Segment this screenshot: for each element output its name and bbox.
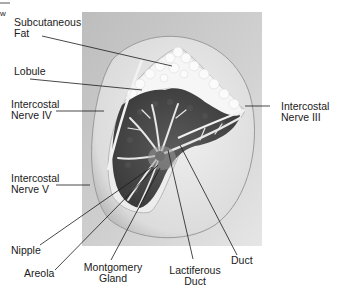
label-lactiferous-duct: Lactiferous Duct [163,265,227,287]
label-areola: Areola [24,268,54,279]
nipple [155,151,165,161]
label-lobule: Lobule [14,66,46,77]
label-nipple: Nipple [11,245,41,256]
label-montgomery-gland: Montgomery Gland [73,262,153,284]
label-subcutaneous-fat: Subcutaneous Fat [14,17,81,39]
breast-anatomy-illustration [0,0,337,289]
label-intercostal-nerve-iii: Intercostal Nerve III [281,101,329,123]
label-duct: Duct [231,255,253,266]
label-intercostal-nerve-v: Intercostal Nerve V [11,173,59,195]
label-intercostal-nerve-iv: Intercostal Nerve IV [11,99,59,121]
